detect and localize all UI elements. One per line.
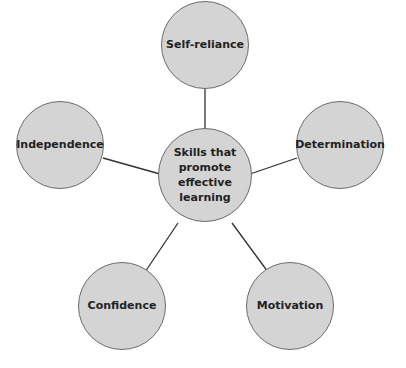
center-node: Skills that promote effective learning <box>158 128 252 222</box>
center-line-3: effective <box>174 175 237 190</box>
connector-confidence <box>145 223 178 272</box>
connector-independence <box>103 158 160 174</box>
node-independence: Independence <box>16 101 104 189</box>
connector-motivation <box>232 223 268 272</box>
node-label: Self-reliance <box>166 38 244 52</box>
node-label: Independence <box>16 138 104 152</box>
center-line-1: Skills that <box>174 145 237 160</box>
connector-determination <box>250 158 297 174</box>
center-line-4: learning <box>174 190 237 205</box>
node-determination: Determination <box>296 101 384 189</box>
node-label: Confidence <box>88 299 157 313</box>
node-label: Determination <box>295 138 385 152</box>
node-self-reliance: Self-reliance <box>161 1 249 89</box>
node-label: Motivation <box>257 299 324 313</box>
node-confidence: Confidence <box>78 262 166 350</box>
node-motivation: Motivation <box>246 262 334 350</box>
center-line-2: promote <box>174 160 237 175</box>
